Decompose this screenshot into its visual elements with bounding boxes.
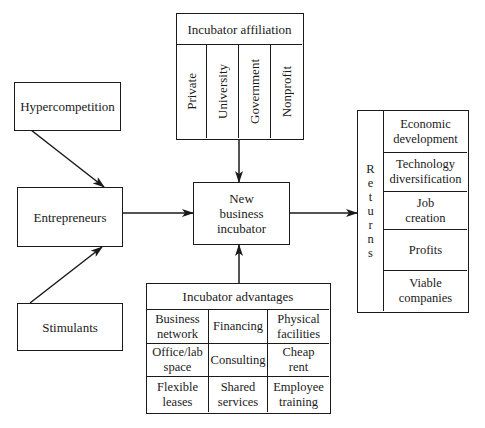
advantage-shared-services: Sharedservices [209, 377, 268, 412]
entrepreneurs-label: Entrepreneurs [34, 210, 107, 225]
affiliation-header: Incubator affiliation [177, 14, 302, 45]
incubator-line-2: business [219, 206, 263, 221]
advantage-text: network [157, 327, 198, 342]
advantage-text: Physical [277, 312, 319, 327]
returns-letter: n [367, 232, 373, 246]
affiliation-government: Government [239, 45, 271, 138]
return-viable-companies: Viablecompanies [384, 271, 467, 311]
return-text: Technology [396, 157, 455, 172]
arrow-stimulants-to-entrepreneurs [30, 247, 102, 303]
incubator-line-3: incubator [217, 221, 266, 236]
return-text: Job [417, 196, 434, 211]
affiliation-private-label: Private [184, 73, 199, 110]
return-text: Economic [400, 117, 451, 132]
return-text: Viable [409, 276, 442, 291]
affiliation-title: Incubator affiliation [187, 22, 291, 37]
return-profits: Profits [384, 230, 467, 271]
hypercompetition-box: Hypercompetition [14, 82, 121, 131]
advantage-text: Employee [273, 380, 324, 395]
stimulants-label: Stimulants [42, 320, 98, 335]
return-text: creation [405, 211, 445, 226]
advantage-text: rent [289, 360, 308, 375]
new-business-incubator-box: New business incubator [193, 182, 290, 245]
returns-box: R e t u r n s Economicdevelopment Techno… [357, 110, 469, 313]
return-technology-diversification: Technologydiversification [384, 153, 467, 192]
affiliation-private: Private [177, 45, 207, 138]
advantage-text: facilities [277, 327, 320, 342]
returns-letter: s [368, 246, 373, 260]
affiliation-nonprofit-label: Nonprofit [279, 66, 294, 117]
advantage-cheap-rent: Cheaprent [268, 344, 329, 377]
advantage-text: training [279, 395, 318, 410]
advantage-flexible-leases: Flexibleleases [147, 377, 209, 412]
incubator-line-1: New [229, 191, 254, 206]
advantage-text: Cheap [283, 345, 315, 360]
return-text: diversification [389, 172, 461, 187]
incubator-affiliation-box: Incubator affiliation Private University… [176, 13, 304, 140]
affiliation-government-label: Government [247, 59, 262, 124]
return-text: companies [399, 291, 452, 306]
returns-letter: t [369, 190, 372, 204]
advantage-text: Office/lab [152, 345, 202, 360]
entrepreneurs-box: Entrepreneurs [17, 187, 123, 247]
return-economic-development: Economicdevelopment [384, 111, 467, 153]
affiliation-university: University [207, 45, 239, 138]
advantage-text: space [164, 360, 192, 375]
advantage-text: Flexible [157, 380, 198, 395]
advantage-office-lab-space: Office/labspace [147, 344, 209, 377]
affiliation-nonprofit: Nonprofit [271, 45, 302, 138]
returns-letter: R [366, 162, 374, 176]
advantages-title: Incubator advantages [183, 289, 294, 304]
stimulants-box: Stimulants [17, 303, 123, 351]
advantage-text: Consulting [211, 353, 266, 368]
advantage-consulting: Consulting [209, 344, 268, 377]
advantage-text: Business [155, 312, 199, 327]
return-text: Profits [409, 243, 442, 258]
arrow-hypercompetition-to-entrepreneurs [31, 130, 104, 187]
advantage-financing: Financing [209, 310, 268, 344]
returns-letter: u [367, 204, 373, 218]
advantage-text: leases [163, 395, 193, 410]
returns-letter: e [368, 176, 374, 190]
hypercompetition-label: Hypercompetition [20, 99, 115, 114]
incubator-advantages-box: Incubator advantages Businessnetwork Fin… [146, 283, 331, 414]
returns-label-column: R e t u r n s [358, 111, 384, 311]
advantages-header: Incubator advantages [147, 284, 329, 310]
advantage-text: Shared [221, 380, 256, 395]
advantage-text: services [218, 395, 258, 410]
return-job-creation: Jobcreation [384, 192, 467, 230]
affiliation-university-label: University [215, 64, 230, 119]
return-text: development [393, 132, 458, 147]
advantage-business-network: Businessnetwork [147, 310, 209, 344]
advantage-physical-facilities: Physicalfacilities [268, 310, 329, 344]
advantage-text: Financing [213, 319, 263, 334]
advantage-employee-training: Employeetraining [268, 377, 329, 412]
returns-letter: r [368, 218, 372, 232]
